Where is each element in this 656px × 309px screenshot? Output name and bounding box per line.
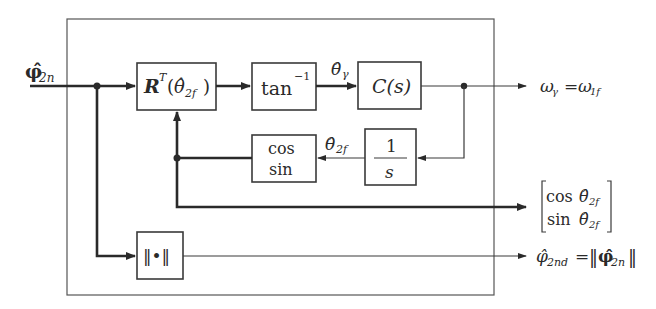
rotation-block-paren-open: ( — [167, 76, 174, 97]
vector-bracket-right — [607, 181, 611, 232]
arctan-block: tan −1 — [252, 63, 316, 110]
arctan-block-sup: −1 — [294, 70, 310, 83]
rotation-block-arg-sub: 2f — [184, 87, 198, 100]
trig-block-cos: cos — [268, 139, 295, 158]
theta-2f-symbol: θ̂ — [325, 134, 335, 154]
input-subscript: 2n — [38, 71, 54, 85]
phi-2nd-equals: = — [575, 246, 589, 266]
trig-block: cos sin — [252, 135, 316, 182]
norm-block: ‖•‖ — [137, 232, 183, 279]
theta-gamma-symbol: θ̂ — [331, 59, 341, 79]
omega-output-label: ω γ = ω 1f — [540, 76, 602, 97]
integrator-numerator: 1 — [386, 136, 397, 156]
trig-block-sin: sin — [269, 160, 293, 179]
norm-block-main: ‖•‖ — [143, 246, 170, 266]
integrator-denominator: s — [385, 162, 394, 182]
cos-sin-vector-output: cos θ̂ 2f sin θ̂ 2f — [542, 181, 611, 232]
vector-row1-sym: θ̂ — [579, 187, 589, 206]
omega-lhs-sub: γ — [552, 86, 558, 97]
vector-row1-fn: cos — [546, 187, 573, 206]
controller-block-main: C(s) — [372, 75, 411, 97]
omega-equals: = — [564, 76, 578, 96]
integrator-block: 1 s — [365, 129, 416, 185]
vector-row2-sym: θ̂ — [579, 210, 589, 229]
rotation-block: R T ( θ̂ 2f ) — [137, 63, 216, 110]
theta-2f-label: θ̂ 2f — [325, 134, 349, 156]
phi-2nd-lhs-sub: 2nd — [546, 256, 568, 269]
controller-block: C(s) — [358, 62, 421, 109]
phi-2nd-norm-open: ‖ — [589, 246, 598, 268]
theta-gamma-subscript: γ — [342, 68, 349, 81]
rotation-block-paren-close: ) — [203, 76, 210, 97]
phi-2nd-output-label: φ̂ 2nd = ‖ φ̂ 2n ‖ — [536, 246, 637, 269]
phi-2nd-norm-close: ‖ — [628, 246, 637, 268]
block-diagram: φ̂ 2n R T ( θ̂ 2f ) tan −1 θ̂ γ C(s) — [0, 0, 656, 309]
theta-gamma-label: θ̂ γ — [331, 59, 349, 81]
rotation-block-main: R — [143, 75, 160, 97]
vector-row2-fn: sin — [547, 210, 571, 229]
input-label: φ̂ 2n — [25, 60, 54, 85]
omega-rhs-sub: 1f — [590, 86, 602, 97]
vector-row2-sub: 2f — [588, 219, 601, 230]
rotation-block-arg: θ̂ — [174, 76, 185, 97]
integrator-feed-line — [418, 86, 464, 158]
norm-branch-line — [97, 86, 135, 256]
vector-row1-sub: 2f — [588, 196, 601, 207]
arctan-block-main: tan — [261, 77, 292, 99]
phi-2nd-rhs-sub: 2n — [610, 256, 625, 269]
theta-2f-subscript: 2f — [335, 143, 349, 156]
cos-sin-output-line — [177, 158, 526, 207]
